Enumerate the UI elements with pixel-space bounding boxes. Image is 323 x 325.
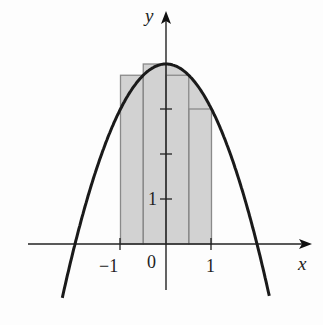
y-axis-label: y (143, 5, 154, 26)
x-tick-label-zero: 0 (147, 252, 156, 272)
x-axis-label: x (297, 253, 307, 274)
x-tick-label-pos1: 1 (206, 256, 215, 276)
y-tick-label-one: 1 (148, 189, 157, 209)
plot-canvas: y x −1 0 1 1 (0, 0, 323, 325)
x-tick-label-neg1: −1 (99, 256, 118, 276)
riemann-sum-figure: y x −1 0 1 1 (0, 0, 323, 325)
